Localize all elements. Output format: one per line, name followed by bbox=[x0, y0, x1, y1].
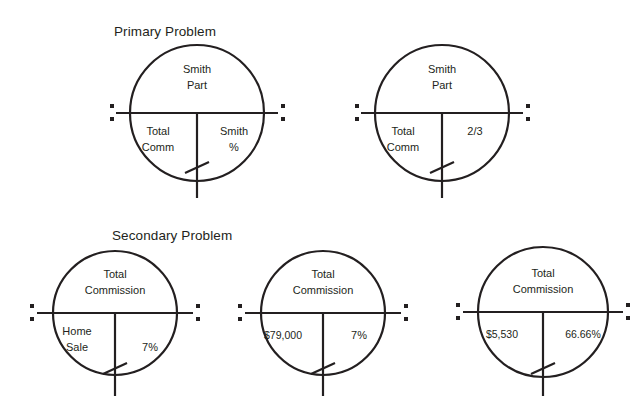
bottom-left-label-line1: $79,000 bbox=[264, 329, 302, 341]
percent-circle-secondary-2: Total Commission $79,000 7% bbox=[228, 248, 418, 400]
left-marker-dot-bottom bbox=[238, 317, 242, 321]
top-label-line1: Smith bbox=[183, 63, 211, 75]
bottom-right-label-line1: 7% bbox=[142, 341, 158, 353]
top-label-line2: Commission bbox=[293, 284, 354, 296]
percent-circle-primary-2: Smith Part Total Comm 2/3 bbox=[345, 38, 540, 203]
left-marker-dot-top bbox=[355, 104, 359, 108]
right-marker-dot-bottom bbox=[404, 317, 408, 321]
bottom-left-label-line1: $5,530 bbox=[486, 328, 518, 340]
right-marker-dot-top bbox=[526, 104, 530, 108]
top-label-line1: Total bbox=[531, 267, 554, 279]
left-marker-dot-top bbox=[238, 304, 242, 308]
right-marker-dot-top bbox=[626, 303, 630, 307]
left-marker-dot-bottom bbox=[30, 317, 34, 321]
bottom-right-label-line1: 7% bbox=[351, 329, 367, 341]
percent-circle-secondary-3: Total Commission $5,530 66.66% bbox=[445, 244, 641, 400]
top-label-line1: Total bbox=[311, 268, 334, 280]
left-marker-dot-top bbox=[30, 304, 34, 308]
left-marker-dot-bottom bbox=[110, 117, 114, 121]
left-marker-dot-bottom bbox=[456, 316, 460, 320]
right-marker-dot-bottom bbox=[526, 117, 530, 121]
bottom-left-label-line1: Total bbox=[146, 125, 169, 137]
left-marker-dot-top bbox=[110, 104, 114, 108]
section-title-primary: Primary Problem bbox=[114, 24, 216, 39]
bottom-right-label-line1: 2/3 bbox=[467, 125, 482, 137]
left-marker-dot-top bbox=[456, 303, 460, 307]
section-title-secondary: Secondary Problem bbox=[112, 228, 232, 243]
bottom-left-label-line2: Comm bbox=[387, 141, 419, 153]
bottom-right-label-line1: Smith bbox=[220, 125, 248, 137]
right-marker-dot-bottom bbox=[626, 316, 630, 320]
top-label-line2: Part bbox=[187, 79, 207, 91]
top-label-line1: Smith bbox=[428, 63, 456, 75]
top-label-line2: Part bbox=[432, 79, 452, 91]
top-label-line1: Total bbox=[103, 268, 126, 280]
left-marker-dot-bottom bbox=[355, 117, 359, 121]
right-marker-dot-top bbox=[404, 304, 408, 308]
right-marker-dot-bottom bbox=[196, 317, 200, 321]
percent-circle-secondary-1: Total Commission Home Sale 7% bbox=[20, 248, 210, 400]
diagram-canvas: Primary Problem Secondary Problem Smith … bbox=[0, 0, 641, 400]
right-marker-dot-bottom bbox=[281, 117, 285, 121]
top-label-line2: Commission bbox=[85, 284, 146, 296]
bottom-left-label-line2: Comm bbox=[142, 141, 174, 153]
percent-circle-primary-1: Smith Part Total Comm Smith % bbox=[100, 38, 295, 203]
bottom-left-label-line1: Home bbox=[62, 325, 91, 337]
bottom-left-label-line2: Sale bbox=[66, 341, 88, 353]
top-label-line2: Commission bbox=[513, 283, 574, 295]
bottom-right-label-line2: % bbox=[229, 141, 239, 153]
right-marker-dot-top bbox=[281, 104, 285, 108]
right-marker-dot-top bbox=[196, 304, 200, 308]
bottom-left-label-line1: Total bbox=[391, 125, 414, 137]
bottom-right-label-line1: 66.66% bbox=[565, 328, 601, 340]
